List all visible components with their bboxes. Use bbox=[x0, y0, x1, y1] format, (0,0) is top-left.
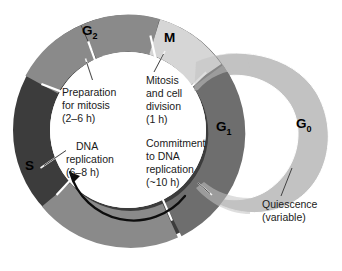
caption-mit-line2: and cell bbox=[146, 87, 182, 99]
caption-qui-line1: Quiescence bbox=[262, 198, 318, 210]
label-m: M bbox=[164, 30, 175, 45]
label-s: S bbox=[25, 158, 34, 173]
caption-qui-line2: (variable) bbox=[262, 211, 306, 223]
caption-prep-line2: for mitosis bbox=[62, 99, 110, 111]
cell-cycle-diagram: G2 M G1 G0 S Preparation for mitosis (2–… bbox=[0, 0, 342, 271]
label-g0-sub: 0 bbox=[307, 124, 312, 134]
label-g0-main: G bbox=[296, 116, 307, 131]
caption-dna-line1: DNA bbox=[76, 140, 98, 152]
caption-mit-line4: (1 h) bbox=[146, 113, 168, 125]
label-g1-sub: 1 bbox=[227, 127, 232, 137]
caption-com-line2: to DNA bbox=[146, 150, 180, 162]
caption-mit-line3: division bbox=[146, 100, 181, 112]
caption-com-line3: replication bbox=[146, 163, 194, 175]
ring-inner-disc bbox=[50, 52, 206, 208]
caption-dna-line3: (6–8 h) bbox=[66, 166, 99, 178]
label-g2-main: G bbox=[82, 23, 93, 38]
caption-dna-line2: replication bbox=[66, 153, 114, 165]
label-g2-sub: 2 bbox=[93, 31, 98, 41]
label-g1-main: G bbox=[216, 119, 227, 134]
caption-prep-line3: (2–6 h) bbox=[62, 112, 95, 124]
caption-prep-line1: Preparation bbox=[62, 86, 116, 98]
caption-quiescence: Quiescence (variable) bbox=[262, 198, 318, 223]
caption-com-line1: Commitment bbox=[146, 137, 206, 149]
sector-g2 bbox=[89, 33, 155, 42]
cell-cycle-svg: G2 M G1 G0 S Preparation for mitosis (2–… bbox=[0, 0, 342, 271]
caption-mit-line1: Mitosis bbox=[146, 74, 179, 86]
caption-com-line4: (~10 h) bbox=[146, 176, 180, 188]
